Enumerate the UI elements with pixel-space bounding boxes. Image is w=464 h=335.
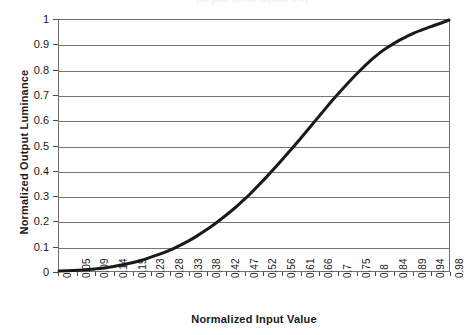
x-tick-mark [189, 272, 190, 276]
x-tick-mark [245, 272, 246, 276]
x-tick-mark [77, 272, 78, 276]
y-tick-label: 0.1 [34, 241, 49, 253]
x-tick-label: 0 [62, 272, 73, 278]
y-tick-label: 0.4 [34, 165, 49, 177]
x-tick-label: 0.52 [267, 259, 278, 278]
x-tick-label: 0.66 [323, 259, 334, 278]
x-tick-label: 0.19 [137, 259, 148, 278]
x-tick-mark [114, 272, 115, 276]
y-tick-label: 0.7 [34, 89, 49, 101]
y-tick-label: 0.5 [34, 140, 49, 152]
y-tick-label: 0.6 [34, 114, 49, 126]
x-tick-label: 0.84 [398, 259, 409, 278]
x-tick-mark [263, 272, 264, 276]
x-tick-label: 0.42 [230, 259, 241, 278]
x-tick-label: 0.8 [379, 264, 390, 278]
x-tick-label: 0.38 [211, 259, 222, 278]
x-tick-label: 0.05 [81, 259, 92, 278]
x-tick-label: 0.47 [249, 259, 260, 278]
x-tick-mark [413, 272, 414, 276]
y-tick-label: 0.8 [34, 64, 49, 76]
x-tick-mark [95, 272, 96, 276]
x-tick-label: 0.33 [193, 259, 204, 278]
x-tick-mark [450, 272, 451, 276]
x-tick-label: 0.89 [417, 259, 428, 278]
y-tick-label: 0.2 [34, 215, 49, 227]
x-tick-label: 0.61 [305, 259, 316, 278]
x-tick-mark [338, 272, 339, 276]
x-tick-label: 0.56 [286, 259, 297, 278]
y-tick-label: 1 [43, 13, 49, 25]
x-tick-mark [394, 272, 395, 276]
x-tick-label: 0.7 [342, 264, 353, 278]
x-axis-tick-labels: 00.050.090.140.190.230.280.330.380.420.4… [0, 272, 464, 312]
x-tick-label: 0.94 [435, 259, 446, 278]
y-tick-label: 0.3 [34, 190, 49, 202]
chart-page: (illegible cut-off caption text) Normali… [0, 0, 464, 335]
x-tick-label: 0.23 [155, 259, 166, 278]
plot-area [58, 19, 450, 272]
x-tick-mark [133, 272, 134, 276]
curve-path [59, 20, 449, 271]
x-tick-label: 0.28 [174, 259, 185, 278]
x-tick-label: 0.09 [99, 259, 110, 278]
x-tick-mark [375, 272, 376, 276]
x-axis-title: Normalized Input Value [58, 313, 450, 325]
x-tick-mark [151, 272, 152, 276]
data-curve [59, 20, 449, 271]
x-tick-label: 0.14 [118, 259, 129, 278]
y-tick-label: 0.9 [34, 38, 49, 50]
x-tick-mark [431, 272, 432, 276]
x-tick-mark [170, 272, 171, 276]
x-tick-mark [301, 272, 302, 276]
x-tick-mark [282, 272, 283, 276]
x-tick-label: 0.75 [361, 259, 372, 278]
x-tick-label: 0.98 [454, 259, 464, 278]
x-tick-mark [319, 272, 320, 276]
x-tick-mark [58, 272, 59, 276]
tone-response-curve-chart: Normalized Output Luminance 00.10.20.30.… [0, 0, 464, 335]
x-tick-mark [357, 272, 358, 276]
x-tick-mark [226, 272, 227, 276]
x-tick-mark [207, 272, 208, 276]
